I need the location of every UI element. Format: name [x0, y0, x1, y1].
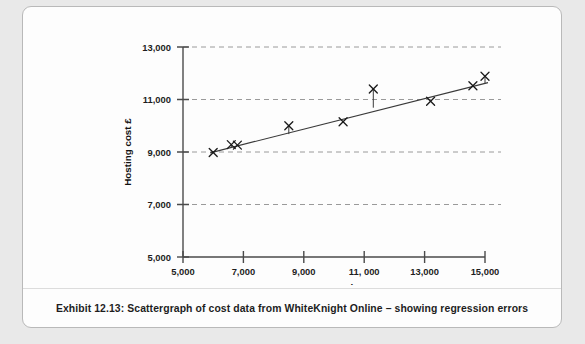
- x-tick-label-15000: 15,000: [471, 266, 500, 277]
- x-axis-tick-labels: 5,000 7,000 9,000 11, 000 13,000 15,000: [171, 266, 499, 277]
- y-tick-label-5000: 5,000: [148, 252, 171, 263]
- data-point-marker: [427, 97, 435, 105]
- chart-svg: 13,000 11,000 9,000 7,000 5,000 5,000 7,…: [23, 7, 561, 285]
- data-points: [209, 72, 489, 156]
- exhibit-panel: 13,000 11,000 9,000 7,000 5,000 5,000 7,…: [22, 6, 562, 328]
- y-axis-tick-labels: 13,000 11,000 9,000 7,000 5,000: [142, 42, 171, 263]
- caption-text: Exhibit 12.13: Scattergraph of cost data…: [56, 303, 528, 314]
- regression-line: [210, 83, 488, 153]
- x-tick-label-5000: 5,000: [171, 266, 194, 277]
- y-tick-label-11000: 11,000: [143, 94, 171, 105]
- x-axis-title: TB used: [315, 282, 354, 285]
- scattergraph-chart: 13,000 11,000 9,000 7,000 5,000 5,000 7,…: [23, 7, 561, 285]
- y-tick-label-9000: 9,000: [148, 147, 171, 158]
- y-axis-title: Hosting cost £: [122, 118, 133, 186]
- residual-lines: [213, 76, 485, 152]
- x-tick-label-11000: 11, 000: [349, 266, 380, 277]
- gridlines: [183, 47, 501, 205]
- page-root: 13,000 11,000 9,000 7,000 5,000 5,000 7,…: [0, 0, 585, 344]
- exhibit-caption: Exhibit 12.13: Scattergraph of cost data…: [23, 289, 561, 328]
- x-tick-label-13000: 13,000: [410, 266, 439, 277]
- y-tick-label-7000: 7,000: [148, 199, 171, 210]
- x-tick-label-9000: 9,000: [292, 266, 315, 277]
- x-tick-label-7000: 7,000: [232, 266, 255, 277]
- y-tick-label-13000: 13,000: [142, 42, 171, 53]
